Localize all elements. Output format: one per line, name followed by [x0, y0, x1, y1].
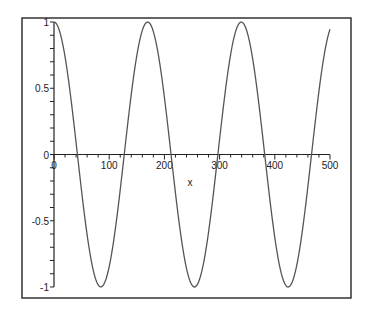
plot-frame	[22, 18, 351, 298]
x-tick-label: 400	[266, 160, 283, 171]
y-tick-label: -1	[40, 282, 49, 293]
x-axis-label: x	[188, 177, 193, 188]
x-tick-label: 200	[156, 160, 173, 171]
y-tick-label: 0.5	[35, 83, 49, 94]
x-tick-label: 0	[51, 160, 57, 171]
x-tick-label: 300	[211, 160, 228, 171]
chart: 0100200300400500-1-0.500.51 x	[0, 0, 371, 315]
y-tick-label: 1	[43, 17, 49, 28]
y-tick-label: 0	[43, 150, 49, 161]
y-tick-label: -0.5	[32, 216, 50, 227]
x-tick-label: 500	[322, 160, 339, 171]
x-tick-label: 100	[101, 160, 118, 171]
